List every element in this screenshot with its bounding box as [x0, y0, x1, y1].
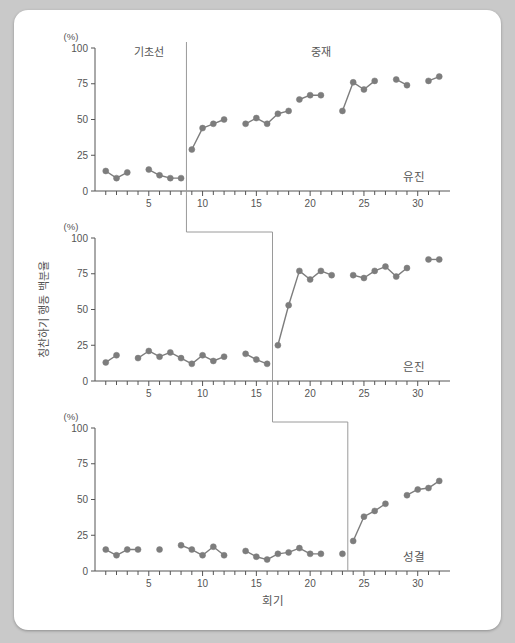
data-point-은진-s19 — [296, 268, 302, 274]
data-point-은진-s9 — [189, 361, 195, 367]
data-point-은진-s5 — [146, 348, 152, 354]
data-point-성결-s19 — [296, 545, 302, 551]
data-point-유진-s26 — [372, 78, 378, 84]
data-point-성결-s14 — [243, 548, 249, 554]
y-tick-label-성결-0: 0 — [82, 566, 88, 577]
data-point-유진-s32 — [436, 74, 442, 80]
y-tick-label-유진-50: 50 — [77, 114, 89, 125]
participant-label-성결: 성결 — [403, 550, 425, 564]
data-point-성결-s24 — [350, 538, 356, 544]
data-point-유진-s25 — [361, 86, 367, 92]
data-point-유진-s18 — [286, 108, 292, 114]
y-tick-label-은진-0: 0 — [82, 376, 88, 387]
y-tick-label-은진-50: 50 — [77, 304, 89, 315]
x-tick-label-성결-10: 10 — [197, 578, 209, 589]
data-point-성결-s6 — [157, 547, 163, 553]
data-line-성결-5 — [353, 504, 385, 541]
y-tick-label-은진-75: 75 — [77, 268, 89, 279]
data-point-성결-s17 — [275, 551, 281, 557]
data-point-은진-s4 — [135, 355, 141, 361]
data-point-유진-s10 — [200, 125, 206, 131]
data-point-유진-s16 — [264, 121, 270, 127]
data-point-성결-s20 — [307, 551, 313, 557]
data-point-성결-s31 — [425, 485, 431, 491]
data-point-은진-s26 — [372, 268, 378, 274]
data-point-성결-s26 — [372, 508, 378, 514]
data-point-성결-s9 — [189, 547, 195, 553]
data-point-은진-s32 — [436, 256, 442, 262]
data-point-유진-s24 — [350, 79, 356, 85]
y-axis-unit-성결: (%) — [64, 411, 79, 422]
data-point-은진-s12 — [221, 354, 227, 360]
data-point-성결-s12 — [221, 552, 227, 558]
x-tick-label-성결-20: 20 — [305, 578, 317, 589]
data-point-유진-s14 — [243, 121, 249, 127]
x-tick-label-유진-5: 5 — [146, 198, 152, 209]
data-point-유진-s23 — [339, 108, 345, 114]
data-point-성결-s16 — [264, 557, 270, 563]
data-point-은진-s16 — [264, 361, 270, 367]
participant-label-은진: 은진 — [403, 360, 425, 374]
y-tick-label-유진-0: 0 — [82, 186, 88, 197]
y-axis-unit-유진: (%) — [64, 31, 79, 42]
data-point-유진-s15 — [253, 115, 259, 121]
x-tick-label-유진-10: 10 — [197, 198, 209, 209]
x-axis-title: 회기 — [262, 594, 284, 608]
data-point-성결-s10 — [200, 552, 206, 558]
x-tick-label-유진-30: 30 — [412, 198, 424, 209]
y-tick-label-유진-25: 25 — [77, 150, 89, 161]
data-point-은진-s28 — [393, 274, 399, 280]
data-point-은진-s2 — [114, 352, 120, 358]
data-point-유진-s2 — [114, 175, 120, 181]
multiple-baseline-chart: (%)025507510051015202530유진(%)02550751005… — [14, 10, 501, 630]
x-tick-label-유진-15: 15 — [251, 198, 263, 209]
data-point-성결-s3 — [124, 547, 130, 553]
figure-card: (%)025507510051015202530유진(%)02550751005… — [14, 10, 501, 630]
data-point-은진-s18 — [286, 302, 292, 308]
y-tick-label-은진-100: 100 — [71, 233, 88, 244]
x-tick-label-성결-30: 30 — [412, 578, 424, 589]
x-tick-label-은진-15: 15 — [251, 388, 263, 399]
y-tick-label-유진-75: 75 — [77, 78, 89, 89]
data-point-유진-s28 — [393, 76, 399, 82]
data-point-은진-s8 — [178, 355, 184, 361]
data-point-유진-s29 — [404, 82, 410, 88]
data-line-유진-5 — [342, 81, 374, 111]
data-point-성결-s8 — [178, 542, 184, 548]
x-tick-label-은진-25: 25 — [358, 388, 370, 399]
data-point-성결-s21 — [318, 551, 324, 557]
data-point-은진-s20 — [307, 276, 313, 282]
data-point-은진-s7 — [167, 349, 173, 355]
data-point-유진-s21 — [318, 92, 324, 98]
y-axis-title: 칭찬하기 행동 백분율 — [37, 261, 51, 358]
data-point-유진-s19 — [296, 96, 302, 102]
y-tick-label-성결-75: 75 — [77, 458, 89, 469]
data-point-유진-s31 — [425, 78, 431, 84]
x-tick-label-은진-5: 5 — [146, 388, 152, 399]
data-point-은진-s11 — [210, 358, 216, 364]
data-point-성결-s2 — [114, 552, 120, 558]
data-point-은진-s14 — [243, 351, 249, 357]
data-point-유진-s12 — [221, 117, 227, 123]
data-point-유진-s3 — [124, 169, 130, 175]
data-point-성결-s27 — [382, 501, 388, 507]
data-line-유진-2 — [192, 120, 224, 150]
data-point-은진-s17 — [275, 342, 281, 348]
x-tick-label-성결-15: 15 — [251, 578, 263, 589]
data-point-은진-s29 — [404, 265, 410, 271]
data-point-은진-s22 — [329, 272, 335, 278]
data-line-유진-1 — [149, 170, 181, 179]
data-point-성결-s11 — [210, 544, 216, 550]
y-tick-label-은진-25: 25 — [77, 340, 89, 351]
x-tick-label-은진-20: 20 — [305, 388, 317, 399]
baseline-phase-label: 기초선 — [134, 46, 164, 59]
data-point-성결-s25 — [361, 514, 367, 520]
data-point-성결-s32 — [436, 478, 442, 484]
data-point-유진-s9 — [189, 147, 195, 153]
y-axis-unit-은진: (%) — [64, 221, 79, 232]
data-point-은진-s15 — [253, 357, 259, 363]
data-point-유진-s20 — [307, 92, 313, 98]
x-tick-label-유진-25: 25 — [358, 198, 370, 209]
data-point-유진-s8 — [178, 175, 184, 181]
data-point-은진-s27 — [382, 264, 388, 270]
